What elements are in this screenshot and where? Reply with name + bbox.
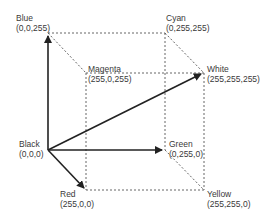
vertex-label-white: White (255,255,255) <box>207 64 260 84</box>
label-name: Red <box>60 189 94 199</box>
label-rgb: (255,0,0) <box>60 199 94 209</box>
vertex-label-black: Black (0,0,0) <box>19 139 44 159</box>
label-rgb: (255,255,255) <box>207 74 260 84</box>
label-rgb: (0,255,255) <box>166 23 209 33</box>
label-name: Blue <box>16 13 50 23</box>
label-rgb: (0,0,0) <box>19 149 44 159</box>
label-name: Cyan <box>166 13 209 23</box>
arrow-to-red <box>48 150 84 188</box>
vertex-label-magenta: Magenta (255,0,255) <box>88 64 131 84</box>
vertex-label-blue: Blue (0,0,255) <box>16 13 50 33</box>
label-rgb: (255,255,0) <box>207 199 250 209</box>
label-name: Green <box>169 139 203 149</box>
vertex-label-yellow: Yellow (255,255,0) <box>207 189 250 209</box>
label-rgb: (0,0,255) <box>16 23 50 33</box>
label-name: Yellow <box>207 189 250 199</box>
vertex-label-green: Green (0,255,0) <box>169 139 203 159</box>
axis-arrows <box>48 36 201 188</box>
label-name: Magenta <box>88 64 131 74</box>
label-rgb: (255,0,255) <box>88 74 131 84</box>
label-name: White <box>207 64 260 74</box>
vertex-label-red: Red (255,0,0) <box>60 189 94 209</box>
label-rgb: (0,255,0) <box>169 149 203 159</box>
label-name: Black <box>19 139 44 149</box>
vertex-label-cyan: Cyan (0,255,255) <box>166 13 209 33</box>
